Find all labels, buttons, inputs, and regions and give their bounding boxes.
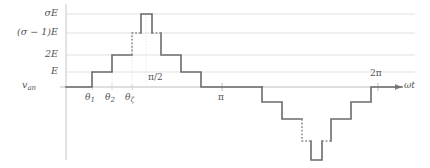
y-tick-label-sigma-minus-1-E: (σ − 1)E bbox=[0, 26, 58, 37]
x-tick-label-theta-1: θ1 bbox=[85, 92, 95, 104]
vertical-guide-lines bbox=[92, 14, 146, 87]
x-axis-label: ωt bbox=[404, 80, 415, 90]
y-tick-label-2E: 2E bbox=[0, 48, 58, 59]
waveform-dotted-risers-negative bbox=[302, 119, 331, 141]
waveform-dotted-risers-positive bbox=[132, 33, 161, 55]
theta-2-subscript: 2 bbox=[110, 96, 114, 104]
x-tick-label-half-pi: π/2 bbox=[148, 72, 163, 82]
y-tick-label-sigma-E: σE bbox=[0, 7, 58, 18]
y-axis-origin-label: van bbox=[22, 79, 36, 92]
gridlines bbox=[66, 14, 415, 72]
theta-zeta-subscript: ζ bbox=[130, 96, 134, 104]
x-tick-label-pi: π bbox=[218, 92, 224, 102]
waveform-canvas bbox=[0, 0, 430, 168]
y-tick-label-E: E bbox=[0, 65, 58, 76]
x-tick-label-2pi: 2π bbox=[370, 68, 382, 78]
x-tick-label-theta-2: θ2 bbox=[105, 92, 115, 104]
waveform-figure: σE (σ − 1)E 2E E van θ1 θ2 θζ π/2 π 2π ω… bbox=[0, 0, 430, 168]
waveform-negative-half bbox=[262, 87, 402, 160]
x-tick-label-theta-zeta: θζ bbox=[125, 92, 134, 104]
y-axis-origin-subscript: an bbox=[27, 84, 36, 92]
theta-1-subscript: 1 bbox=[90, 96, 94, 104]
waveform-positive-half bbox=[66, 14, 262, 87]
